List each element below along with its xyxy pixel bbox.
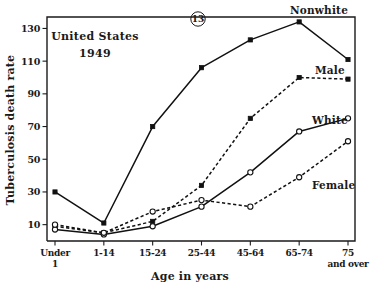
data-point-marker	[199, 183, 203, 187]
data-point-marker	[199, 66, 203, 70]
annotation-year: 1949	[79, 47, 111, 60]
series-label-white: White	[311, 114, 348, 126]
y-axis-ticks: 1030507090110130	[21, 23, 47, 230]
tuberculosis-death-rate-line-chart: 1030507090110130 Under11-1415-2425-4445-…	[0, 0, 383, 285]
data-point-marker	[52, 222, 57, 227]
data-point-marker	[151, 219, 155, 223]
data-point-marker	[150, 209, 155, 214]
data-point-marker	[297, 129, 302, 134]
series-line-white	[55, 118, 348, 234]
data-point-marker	[346, 57, 350, 61]
chart-figure: 1030507090110130 Under11-1415-2425-4445-…	[0, 0, 383, 285]
data-point-marker	[346, 77, 350, 81]
data-point-marker	[248, 170, 253, 175]
y-axis-tick-label: 90	[27, 88, 40, 99]
x-axis-tick-label: 45-64	[237, 248, 264, 258]
series-labels: NonwhiteMaleWhiteFemale	[290, 4, 355, 191]
data-point-marker	[248, 116, 252, 120]
x-axis-tick-label: 1-14	[93, 248, 114, 258]
series-label-male: Male	[315, 64, 345, 76]
y-axis-tick-label: 50	[27, 154, 40, 165]
y-axis-title: Tuberculosis death rate	[4, 55, 17, 206]
data-point-marker	[248, 204, 253, 209]
y-axis-tick-label: 30	[27, 186, 40, 197]
data-point-marker	[297, 175, 302, 180]
series-label-nonwhite: Nonwhite	[290, 4, 348, 16]
data-point-marker	[53, 190, 57, 194]
x-axis-tick-label: 25-44	[188, 248, 215, 258]
data-point-marker	[297, 75, 301, 79]
y-axis-tick-label: 130	[21, 23, 41, 34]
y-axis-tick-label: 10	[27, 219, 40, 230]
data-point-marker	[102, 221, 106, 225]
data-point-marker	[248, 38, 252, 42]
series-label-female: Female	[312, 179, 355, 191]
y-axis-tick-label: 110	[21, 56, 41, 67]
data-point-marker	[150, 224, 155, 229]
x-axis-title: Age in years	[150, 270, 229, 283]
x-axis-tick-label: Under1	[40, 248, 70, 269]
figure-number-label: 13	[192, 14, 205, 24]
data-point-marker	[101, 230, 106, 235]
y-axis-tick-label: 70	[27, 121, 40, 132]
x-axis-tick-label: 75and over	[327, 248, 369, 269]
data-point-marker	[199, 198, 204, 203]
data-point-marker	[199, 204, 204, 209]
x-axis-ticks: Under11-1415-2425-4445-6465-7475and over	[40, 241, 369, 269]
data-point-marker	[151, 124, 155, 128]
data-point-marker	[345, 139, 350, 144]
data-point-marker	[297, 20, 301, 24]
x-axis-tick-label: 15-24	[139, 248, 166, 258]
x-axis-tick-label: 65-74	[286, 248, 313, 258]
annotation-country: United States	[51, 30, 139, 43]
